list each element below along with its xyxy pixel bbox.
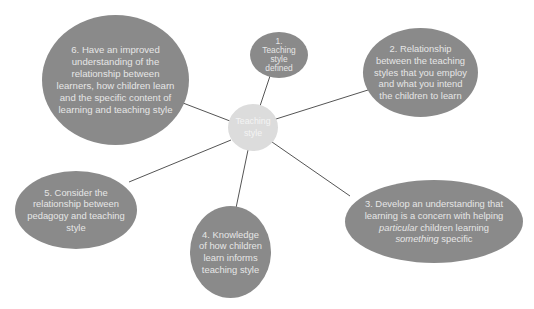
node-3-develop-understanding: 3. Develop an understanding that learnin… xyxy=(345,180,523,263)
center-node-line: style xyxy=(244,128,262,138)
node-5-text: 5. Consider the relationship between ped… xyxy=(27,187,124,234)
connector-to-node-6 xyxy=(183,103,230,121)
node-5-pedagogy-relationship: 5. Consider the relationship between ped… xyxy=(15,171,137,249)
node-6-line: and the specific content of xyxy=(60,92,171,103)
center-node-line: Teaching xyxy=(235,116,270,126)
node-3-line: learning is a concern with helping xyxy=(365,210,504,221)
connector-to-node-5 xyxy=(129,140,231,182)
node-3-text: 3. Develop an understanding that learnin… xyxy=(365,198,504,245)
node-4-text: 4. Knowledge of how children learn infor… xyxy=(199,229,262,276)
node-5-line: relationship between xyxy=(33,198,119,209)
node-1-text: 1. Teaching style defined xyxy=(262,37,296,74)
node-2-line: the children to learn xyxy=(379,90,461,101)
node-4-line: of how children xyxy=(199,240,262,251)
node-4-line: learn informs xyxy=(203,252,257,263)
node-5-line: 5. Consider the xyxy=(44,187,108,198)
node-3-italic-something: something xyxy=(395,233,438,244)
connector-to-node-4 xyxy=(236,150,248,208)
node-2-relationship-teaching-styles: 2. Relationship between the teaching sty… xyxy=(363,28,478,117)
node-2-line: between the teaching xyxy=(376,55,465,66)
center-node-teaching-style: Teaching style xyxy=(228,104,278,151)
connector-to-node-3 xyxy=(272,142,350,196)
node-4-line: 4. Knowledge xyxy=(202,229,259,240)
node-2-line: 2. Relationship xyxy=(389,43,451,54)
node-4-line: teaching style xyxy=(202,264,259,275)
center-node-text: Teaching style xyxy=(235,116,270,139)
node-2-line: styles that you employ xyxy=(374,67,467,78)
node-6-line: relationship between xyxy=(71,68,159,79)
node-3-line: children learning xyxy=(418,222,489,233)
node-1-line: defined xyxy=(265,63,292,73)
mind-map-canvas: 6. Have an improved understanding of the… xyxy=(0,0,534,309)
node-6-text: 6. Have an improved understanding of the… xyxy=(57,44,175,116)
node-4-knowledge-how-children-learn: 4. Knowledge of how children learn infor… xyxy=(190,206,271,298)
connector-to-node-1 xyxy=(260,76,270,106)
node-5-line: pedagogy and teaching xyxy=(27,210,124,221)
node-3-line: 3. Develop an understanding that xyxy=(365,198,503,209)
node-2-text: 2. Relationship between the teaching sty… xyxy=(374,43,467,102)
node-6-line: understanding of the xyxy=(72,56,159,67)
node-3-italic-particular: particular xyxy=(379,222,418,233)
node-3-line: specific xyxy=(439,233,473,244)
node-1-teaching-style-defined: 1. Teaching style defined xyxy=(250,32,308,78)
node-2-line: and what you intend xyxy=(379,78,463,89)
connector-to-node-2 xyxy=(276,90,368,119)
node-5-line: style xyxy=(66,222,85,233)
node-6-line: learners, how children learn xyxy=(57,80,175,91)
node-6-improved-understanding: 6. Have an improved understanding of the… xyxy=(42,15,189,145)
node-6-line: learning and teaching style xyxy=(58,104,172,115)
node-6-line: 6. Have an improved xyxy=(71,44,160,55)
